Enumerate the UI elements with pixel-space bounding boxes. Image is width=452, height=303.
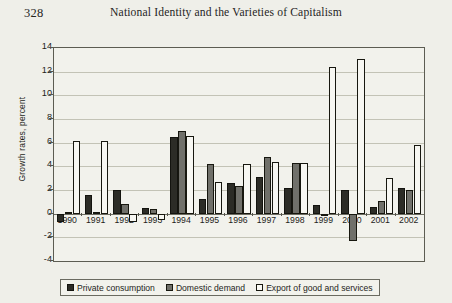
bar-1997-series-2[interactable] <box>272 162 279 214</box>
bar-1992-series-2[interactable] <box>129 214 136 222</box>
bar-1992-series-1[interactable] <box>121 204 128 213</box>
bar-group-1997 <box>256 48 279 261</box>
legend-swatch-icon <box>166 284 173 291</box>
bar-group-1995 <box>199 48 222 261</box>
bar-2001-series-1[interactable] <box>378 201 385 214</box>
bar-1990-series-2[interactable] <box>73 141 80 213</box>
bar-1996-series-0[interactable] <box>227 183 234 214</box>
bar-1997-series-0[interactable] <box>256 177 263 214</box>
bar-group-1998 <box>284 48 307 261</box>
plot-area <box>53 47 425 262</box>
legend-swatch-icon <box>256 284 263 291</box>
bar-2001-series-0[interactable] <box>370 207 377 214</box>
y-tick-2: 2 <box>20 184 52 193</box>
bar-group-1992 <box>113 48 136 261</box>
running-head-title: National Identity and the Varieties of C… <box>0 6 452 19</box>
legend-label: Domestic demand <box>176 283 245 293</box>
x-tick-mark <box>252 213 253 216</box>
y-tick-6: 6 <box>20 137 52 146</box>
bar-1994-series-1[interactable] <box>178 131 185 214</box>
bar-group-2000 <box>341 48 364 261</box>
x-tick-2002: 2002 <box>389 215 429 225</box>
bar-2000-series-1[interactable] <box>349 214 356 241</box>
bar-2002-series-2[interactable] <box>414 145 421 214</box>
bar-1995-series-1[interactable] <box>207 164 214 214</box>
chart-legend: Private consumptionDomestic demandExport… <box>60 279 380 296</box>
bar-group-1994 <box>170 48 193 261</box>
bar-2001-series-2[interactable] <box>386 178 393 214</box>
bar-1999-series-2[interactable] <box>329 67 336 214</box>
y-tick-8: 8 <box>20 113 52 122</box>
bar-1998-series-2[interactable] <box>300 163 307 214</box>
x-tick-mark <box>110 213 111 216</box>
bar-2002-series-0[interactable] <box>398 188 405 214</box>
bar-group-1999 <box>313 48 336 261</box>
bar-1993-series-0[interactable] <box>142 208 149 214</box>
y-axis-tick-labels: -4-202468101214 <box>20 30 52 270</box>
bar-1996-series-2[interactable] <box>243 164 250 214</box>
x-tick-mark <box>138 213 139 216</box>
bar-1995-series-0[interactable] <box>199 199 206 213</box>
legend-swatch-icon <box>67 284 74 291</box>
bar-2000-series-0[interactable] <box>341 190 348 214</box>
bar-chart-figure: Growth rates, percent -4-202468101214 19… <box>0 30 452 303</box>
bar-1998-series-1[interactable] <box>292 163 299 214</box>
x-tick-mark <box>309 213 310 216</box>
y-tick-14: 14 <box>20 42 52 51</box>
y-tick-4: 4 <box>20 160 52 169</box>
bar-1993-series-1[interactable] <box>150 209 157 214</box>
bar-1999-series-0[interactable] <box>313 205 320 213</box>
x-tick-mark <box>366 213 367 216</box>
x-tick-mark <box>195 213 196 216</box>
bar-1994-series-2[interactable] <box>186 136 193 214</box>
bar-group-1996 <box>227 48 250 261</box>
legend-item-2[interactable]: Export of good and services <box>256 283 373 293</box>
bar-1994-series-0[interactable] <box>170 137 177 214</box>
legend-item-0[interactable]: Private consumption <box>67 283 155 293</box>
x-tick-mark <box>338 213 339 216</box>
bar-1993-series-2[interactable] <box>158 214 165 220</box>
bar-1995-series-2[interactable] <box>215 182 222 214</box>
page-header: 328 National Identity and the Varieties … <box>0 6 452 28</box>
x-tick-mark <box>224 213 225 216</box>
bar-1998-series-0[interactable] <box>284 188 291 214</box>
x-tick-mark <box>281 213 282 216</box>
y-tick--4: -4 <box>20 255 52 264</box>
x-tick-mark <box>167 213 168 216</box>
bar-2002-series-1[interactable] <box>406 190 413 214</box>
bar-1991-series-2[interactable] <box>101 141 108 213</box>
x-tick-mark <box>81 213 82 216</box>
y-tick--2: -2 <box>20 231 52 240</box>
bar-2000-series-2[interactable] <box>357 59 364 214</box>
bar-group-1991 <box>85 48 108 261</box>
legend-label: Private consumption <box>77 283 155 293</box>
x-tick-mark <box>53 213 54 216</box>
legend-item-1[interactable]: Domestic demand <box>166 283 245 293</box>
y-tick-12: 12 <box>20 66 52 75</box>
bar-series-container <box>54 48 424 261</box>
y-tick-10: 10 <box>20 89 52 98</box>
x-tick-mark <box>395 213 396 216</box>
bar-1990-series-0[interactable] <box>57 214 64 222</box>
legend-label: Export of good and services <box>266 283 373 293</box>
bar-group-2001 <box>370 48 393 261</box>
bar-group-1993 <box>142 48 165 261</box>
bar-1996-series-1[interactable] <box>235 186 242 213</box>
bar-1992-series-0[interactable] <box>113 190 120 214</box>
bar-group-1990 <box>57 48 80 261</box>
bar-1991-series-0[interactable] <box>85 195 92 214</box>
bar-1997-series-1[interactable] <box>264 157 271 214</box>
bar-group-2002 <box>398 48 421 261</box>
